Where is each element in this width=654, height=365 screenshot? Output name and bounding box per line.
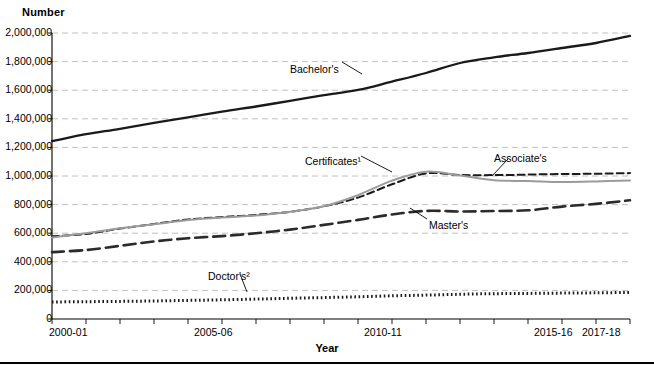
series-label: Certificates¹	[305, 155, 361, 167]
x-axis-tick-label: 2000-01	[49, 326, 88, 338]
series-line-bachelors	[52, 36, 630, 141]
x-axis-tick-label: 2010-11	[364, 326, 402, 338]
plot-area	[0, 0, 654, 365]
x-axis-ticks	[52, 319, 630, 324]
x-axis-tick-label: 2005-06	[194, 326, 233, 338]
x-axis-tick-label: 2017-18	[582, 326, 621, 338]
x-axis-title: Year	[0, 342, 654, 354]
x-axis-tick-label: 2015-16	[534, 326, 573, 338]
series-label: Doctor's²	[208, 270, 250, 282]
chart-figure: Number 2,000,0001,800,0001,600,0001,400,…	[0, 0, 654, 365]
series-label: Master's	[429, 219, 468, 231]
bottom-rule	[0, 362, 654, 364]
series-line-doctors	[52, 292, 630, 302]
series-label: Bachelor's	[290, 63, 339, 75]
series-label: Associate's	[494, 152, 547, 164]
gridlines	[48, 33, 630, 319]
